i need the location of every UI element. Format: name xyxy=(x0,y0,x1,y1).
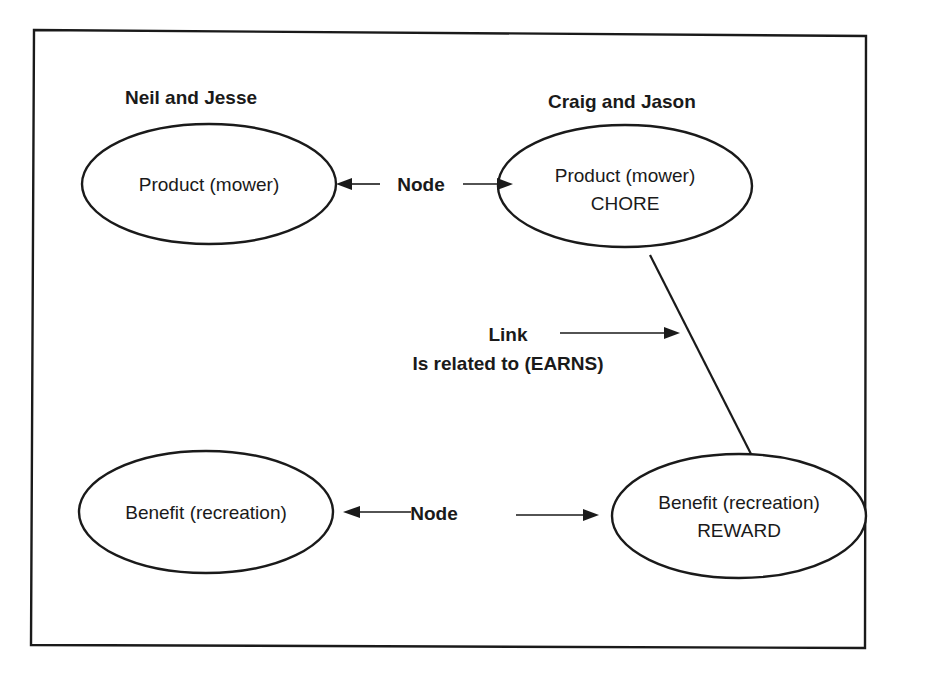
means-end-diagram: Neil and Jesse Craig and Jason Product (… xyxy=(0,0,928,690)
link-line-earns xyxy=(650,255,751,454)
link-label: Link xyxy=(488,324,527,345)
node-annotation-label: Node xyxy=(410,503,458,524)
arrow-right-icon xyxy=(583,509,599,521)
node-product-mower-chore: Product (mower) CHORE xyxy=(498,125,752,247)
arrow-left-icon xyxy=(336,178,352,190)
node-label: Product (mower) xyxy=(139,174,279,195)
node-benefit-recreation-left: Benefit (recreation) xyxy=(79,451,333,573)
node-benefit-recreation-reward: Benefit (recreation) REWARD xyxy=(612,454,866,578)
top-node-annotation: Node xyxy=(336,174,513,195)
group-title-craig-and-jason: Craig and Jason xyxy=(548,91,696,112)
node-label: Benefit (recreation) xyxy=(658,492,820,513)
node-sublabel: REWARD xyxy=(697,520,781,541)
arrow-left-icon xyxy=(343,506,360,518)
link-annotation: Link Is related to (EARNS) xyxy=(412,324,680,374)
node-annotation-label: Node xyxy=(397,174,445,195)
bottom-node-annotation: Node xyxy=(343,503,599,524)
node-sublabel: CHORE xyxy=(591,193,660,214)
link-relation-label: Is related to (EARNS) xyxy=(412,353,603,374)
node-label: Product (mower) xyxy=(555,165,695,186)
arrow-right-icon xyxy=(664,327,680,339)
group-title-neil-and-jesse: Neil and Jesse xyxy=(125,87,257,108)
node-product-mower-left: Product (mower) xyxy=(82,124,336,244)
node-label: Benefit (recreation) xyxy=(125,502,287,523)
